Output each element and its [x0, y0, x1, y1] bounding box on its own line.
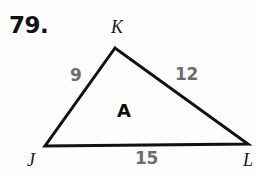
side-length-jl: 15 [135, 150, 158, 167]
vertex-label-l: L [243, 151, 253, 169]
vertex-label-k: K [111, 18, 123, 36]
side-length-kl: 12 [175, 66, 198, 83]
triangle-jkl-outline [45, 48, 248, 146]
region-label-a: A [117, 102, 131, 120]
side-length-jk: 9 [70, 67, 82, 84]
geometry-figure: 79. K J L 9 12 15 A [0, 0, 259, 174]
vertex-label-j: J [27, 151, 35, 169]
problem-number: 79. [9, 14, 48, 37]
